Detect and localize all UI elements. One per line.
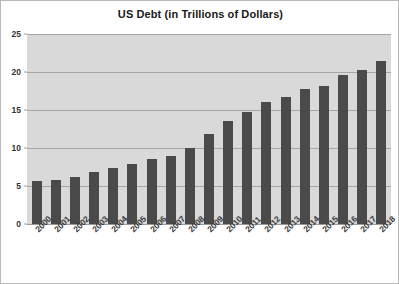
gridline-20 [27,72,391,73]
bar-2012 [261,102,271,224]
y-tick-label-0: 0 [16,219,21,229]
bar-2001 [51,180,61,224]
bar-2006 [147,159,157,224]
gridline-25 [27,34,391,35]
bar-2005 [127,164,137,224]
bar-2009 [204,134,214,224]
bar-2013 [281,97,291,224]
bar-2003 [89,172,99,224]
y-tick-label-5: 5 [16,181,21,191]
bar-2002 [70,177,80,224]
bar-2017 [357,70,367,224]
bar-2007 [166,156,176,224]
bar-2004 [108,168,118,224]
bar-2010 [223,121,233,224]
gridline-15 [27,110,391,111]
y-tick-label-25: 25 [12,29,21,39]
y-tick-label-15: 15 [12,105,21,115]
plot-area [27,34,391,224]
bar-2014 [300,89,310,224]
x-axis: 2000200120022003200420052006200720082009… [27,224,391,284]
chart-title: US Debt (in Trillions of Dollars) [1,8,399,20]
y-axis: 0510152025 [1,34,27,224]
y-tick-label-10: 10 [12,143,21,153]
bar-2015 [319,86,329,224]
bar-2008 [185,148,195,224]
bar-2011 [242,112,252,224]
y-tick-label-20: 20 [12,67,21,77]
bar-2018 [376,61,386,224]
bar-2016 [338,75,348,224]
chart-container: US Debt (in Trillions of Dollars) 051015… [0,0,399,284]
